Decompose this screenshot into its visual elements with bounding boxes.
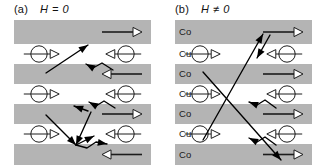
panel-a-header: (a)H = 0	[14, 3, 69, 19]
layer-co-0: Co	[175, 20, 312, 44]
panel-a-field-condition: H = 0	[40, 3, 69, 15]
layer-co-0	[14, 20, 151, 44]
layer-co-2	[14, 64, 151, 84]
layer-label-cu-3: Cu	[179, 89, 192, 99]
panel-b-tag: (b)	[175, 3, 189, 15]
layer-label-co-0: Co	[179, 27, 192, 37]
panel-a: (a)H = 0	[0, 0, 161, 167]
layer-label-co-2: Co	[179, 69, 192, 79]
panel-b-header: (b)H ≠ 0	[175, 3, 230, 19]
layer-label-cu-1: Cu	[179, 49, 192, 59]
layer-label-co-4: Co	[179, 109, 192, 119]
layer-cu-3	[14, 84, 151, 104]
panel-b-field-condition: H ≠ 0	[201, 3, 230, 15]
layer-cu-5: Cu	[175, 124, 312, 144]
panel-b-layer-stack: CoCuCoCuCoCuCo	[175, 20, 312, 165]
layer-cu-1: Cu	[175, 44, 312, 64]
gmr-multilayer-figure: (a)H = 0(b)H ≠ 0CoCuCoCuCoCuCo	[0, 0, 322, 167]
layer-label-cu-5: Cu	[179, 129, 192, 139]
layer-co-4	[14, 104, 151, 124]
layer-co-6: Co	[175, 144, 312, 165]
layer-co-2: Co	[175, 64, 312, 84]
layer-label-co-6: Co	[179, 150, 192, 160]
layer-cu-3: Cu	[175, 84, 312, 104]
layer-co-4: Co	[175, 104, 312, 124]
layer-cu-5	[14, 124, 151, 144]
layer-cu-1	[14, 44, 151, 64]
panel-a-tag: (a)	[14, 3, 28, 15]
panel-b: (b)H ≠ 0CoCuCoCuCoCuCo	[161, 0, 322, 167]
layer-co-6	[14, 144, 151, 165]
panel-a-layer-stack	[14, 20, 151, 165]
